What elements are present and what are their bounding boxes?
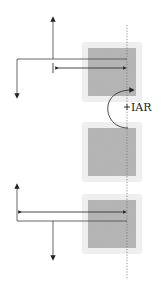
iar-marker: IAR — [124, 101, 152, 114]
lower-vertebra-block — [88, 200, 136, 248]
iar-label: IAR — [131, 101, 152, 114]
vertebral-motion-diagram: IAR — [0, 0, 161, 294]
middle-vertebra-block — [88, 128, 136, 176]
upper-vertebra-block — [88, 48, 136, 96]
